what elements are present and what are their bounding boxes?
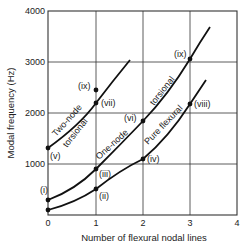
curve-label-torsional-2: torsional — [148, 74, 177, 107]
x-tick: 4 — [234, 218, 239, 228]
point-flexural-0 — [46, 208, 51, 213]
y-tick: 3000 — [25, 57, 45, 67]
label-iii: (iii) — [99, 169, 111, 179]
x-tick: 3 — [187, 218, 192, 228]
y-tick: 1000 — [25, 159, 45, 169]
label-vii: (vii) — [101, 98, 116, 108]
point-vii — [94, 101, 99, 106]
label-ix: (ix) — [174, 49, 187, 59]
modal-frequency-chart: 4000 3000 2000 1000 0 1 2 3 4 Number of … — [0, 0, 250, 245]
point-vi — [141, 119, 146, 124]
point-ix — [188, 57, 193, 62]
label-i: (i) — [40, 185, 48, 195]
label-ii: (ii) — [99, 191, 109, 201]
curve-label-one-node: One-node — [94, 127, 130, 161]
point-ix-isolated — [94, 88, 99, 93]
y-tick: 2000 — [25, 108, 45, 118]
point-i — [46, 198, 51, 203]
label-viii: (viii) — [194, 99, 211, 109]
point-ii — [94, 187, 99, 192]
x-tick: 1 — [93, 218, 98, 228]
x-axis-ticks: 0 1 2 3 4 — [45, 218, 239, 228]
y-axis-ticks: 4000 3000 2000 1000 — [25, 6, 45, 169]
label-ix-isolated: (ix) — [78, 81, 91, 91]
label-iv: (iv) — [147, 154, 160, 164]
x-tick: 2 — [140, 218, 145, 228]
point-viii — [188, 102, 193, 107]
label-v: (v) — [50, 151, 61, 161]
point-iii — [94, 167, 99, 172]
x-tick: 0 — [45, 218, 50, 228]
label-vi: (vi) — [124, 113, 137, 123]
y-tick: 4000 — [25, 6, 45, 16]
x-axis-label: Number of flexural nodal lines — [81, 232, 207, 243]
y-axis-label: Modal frequency (Hz) — [5, 68, 16, 159]
point-iv — [141, 157, 146, 162]
point-v — [46, 146, 51, 151]
